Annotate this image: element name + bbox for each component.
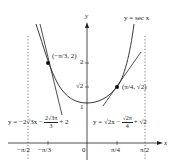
fraction: 2√3π3 — [44, 115, 58, 129]
x-tick-neg-pi-2: −π/2 — [17, 147, 30, 154]
tangent-line-right — [103, 52, 141, 106]
point-left — [46, 61, 50, 65]
tangent-left-equation: y = −2√3x − 2√3π3 + 2 — [8, 115, 68, 129]
point-left-label: (−π/3, 2) — [52, 53, 77, 60]
curve-label: y = sec x — [124, 15, 149, 22]
x-tick-pi-4: π/4 — [111, 147, 120, 154]
tangent-right-equation: y = √2x − √2π4 + √2 — [93, 115, 147, 129]
x-tick-zero: 0 — [82, 147, 86, 154]
graph-canvas — [0, 0, 174, 164]
y-tick-sqrt2: √2 — [76, 83, 83, 90]
point-right — [115, 85, 119, 89]
x-axis-label: x — [164, 140, 167, 147]
y-tick-1: 1 — [80, 104, 84, 111]
y-tick-2: 2 — [80, 59, 84, 66]
y-axis-label: y — [85, 13, 88, 20]
sec-graph-figure: y = sec x y x −π/2 −π/3 0 π/4 π/2 1 √2 2… — [0, 0, 174, 164]
fraction: √2π4 — [122, 115, 133, 129]
sec-curve — [36, 24, 134, 103]
x-tick-neg-pi-3: −π/3 — [38, 147, 51, 154]
x-tick-pi-2: π/2 — [140, 147, 149, 154]
point-right-label: (π/4, √2) — [122, 84, 146, 91]
x-axis-arrow-icon — [157, 141, 163, 145]
y-axis-arrow-icon — [85, 22, 89, 28]
tangent-line-left — [40, 24, 62, 115]
